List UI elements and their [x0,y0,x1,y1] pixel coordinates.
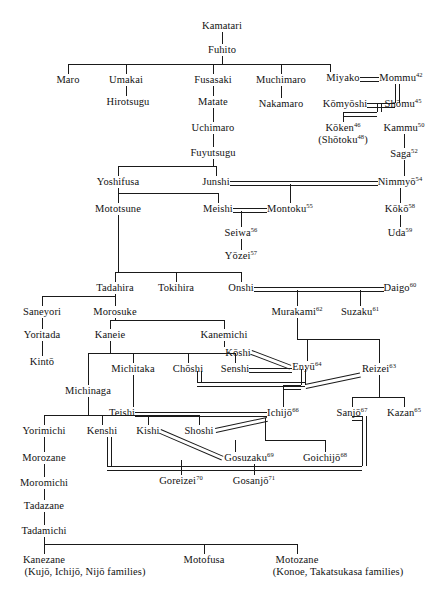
descent-daigo-suzaku [360,290,361,306]
sibling-bus-ichijo [265,440,325,441]
node-michinaga: Michinaga [65,385,111,396]
descent-uchimaro-fuyutsugu [213,134,214,147]
marriage-choshi-reizei-h [197,382,305,387]
descent-choshi [188,353,189,363]
descent-mommu-shomu-h [385,103,395,108]
descent-sanjo [352,397,353,407]
sibling-bus-mototsune [115,272,241,273]
node-yoritada: Yoritada [24,329,60,340]
node-gosanjo: Gosanjō71 [233,475,275,486]
node-reizei: Reizei63 [362,363,396,374]
node-nakamaro: Nakamaro [259,98,304,109]
sibling-bus-yoshifusa [118,193,218,194]
descent-yoshifusa [118,166,119,176]
sibling-bus-tadahira [42,296,115,297]
reign-number: 69 [267,451,274,458]
node-seiwa: Seiwa56 [225,227,258,238]
node-saga: Saga52 [390,148,418,159]
reign-number: 64 [315,360,322,367]
descent-ichijo-bus-v [265,418,266,440]
node-ichijo: Ichijō66 [267,407,299,418]
node-kenshi: Kenshi [87,425,117,436]
node-maro: Maro [56,74,79,85]
reign-number: 71 [269,474,276,481]
descent-kaneie [110,320,111,329]
reign-number: 45 [415,97,422,104]
node-meishi: Meishi [203,203,233,214]
marriage-miyako-mommu [360,77,380,82]
node-shotoku: (Shōtoku48) [318,134,368,145]
node-kamatari: Kamatari [202,20,242,31]
sibling-bus-murakami [297,339,379,340]
descent-miyako [330,64,331,72]
node-teishi: Teishi [109,407,135,418]
descent-maro [68,64,69,74]
descent-senshi [235,353,236,363]
node-montoku: Montoku55 [267,203,313,214]
descent-enyu [307,339,308,361]
descent-fuyutsugu-bus [213,159,214,166]
reign-number: 67 [361,406,368,413]
marriage-kenshi-sanjo-v1 [107,437,112,466]
descent-koken-drop [343,112,344,122]
node-kammu: Kammu50 [383,122,424,133]
node-daigo: Daigo60 [384,282,417,293]
node-goichijo: Goichijō68 [303,452,347,463]
node-senshi: Senshi [221,363,250,374]
descent-tokihira [176,272,177,282]
node-yorimichi: Yorimichi [22,425,65,436]
node-komyoshi: Kōmyōshi [323,98,368,109]
node-murakami: Murakami62 [271,306,322,317]
descent-daigo-murakami [297,290,298,306]
descent-saneyori [42,296,43,306]
node-tadamichi: Tadamichi [21,525,66,536]
sibling-bus-tadamichi [44,544,297,545]
descent-michinaga [88,353,89,385]
descent-michitaka-teishi [133,375,134,407]
descent-reizei [379,339,380,363]
descent-motofusa [204,544,205,554]
reign-number: 60 [410,281,417,288]
node-suzaku: Suzaku61 [341,306,379,317]
descent-fusasaki-matate [213,86,214,96]
node-morozane: Morozane [22,452,65,463]
descent-yoritada-kinto [42,341,43,356]
descent-shomu-koken-h [343,112,377,117]
descent-tadahira [115,272,116,282]
descent-meishi [218,193,219,203]
reign-number: 50 [418,121,425,128]
descent-tadamichi-bus [44,537,45,544]
node-shoshi: Shoshi [184,425,213,436]
descent-fuhito-bus [222,56,223,64]
sibling-bus-kaneie [88,353,235,354]
node-mommu: Mommu42 [379,72,422,83]
node-nimmyo: Nimmyō54 [378,176,423,187]
node-fusasaki: Fusasaki [194,74,232,85]
descent-junshi-montoku [290,184,291,203]
node-tadazane: Tadazane [24,500,64,511]
descent-reizei-bus-v [379,375,380,397]
descent-kammu-saga [404,134,405,148]
sibling-bus-reizei [352,397,404,398]
sibling-bus-fuhito [68,64,330,65]
node-hirotsugu: Hirotsugu [107,96,150,107]
descent-kanemichi [224,320,225,329]
marriage-kenshi-sanjo-v2 [362,416,367,466]
descent-ichijo-drop [283,385,284,407]
reign-number: 62 [316,305,323,312]
sibling-bus-morosuke [110,320,224,321]
descent-montoku-seiwa [241,211,242,227]
descent-motozane [297,544,298,554]
marriage-junshi-nimmyo [230,181,378,186]
descent-mommu-shomu-v [395,84,400,103]
reign-number: 61 [372,305,379,312]
descent-onshi [241,272,242,282]
node-fuhito: Fuhito [208,44,236,55]
descent-muchimaro-nakamaro [281,86,282,98]
node-gosuzaku: Gosuzaku69 [224,452,274,463]
node-mototsune: Mototsune [95,203,141,214]
descent-yorimichi-morozane [44,437,45,452]
reign-number: 70 [196,474,203,481]
node-michitaka: Michitaka [111,363,154,374]
marriage-onshi-daigo [254,287,384,292]
